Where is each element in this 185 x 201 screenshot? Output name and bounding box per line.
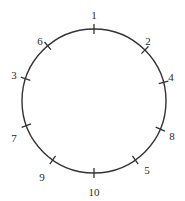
tick-label-1: 1: [91, 9, 97, 21]
tick-label-10: 10: [89, 186, 101, 198]
tick-label-6: 6: [37, 35, 43, 47]
tick-label-3: 3: [11, 69, 17, 81]
tick-label-5: 5: [144, 164, 150, 176]
tick-label-8: 8: [169, 130, 175, 142]
tick-mark-9: [50, 156, 56, 164]
tick-label-9: 9: [39, 171, 45, 183]
tick-label-7: 7: [11, 132, 17, 144]
tick-marks: [21, 24, 169, 178]
tick-label-4: 4: [168, 71, 174, 83]
circle-diagram: 12485109736: [0, 0, 185, 201]
tick-mark-5: [132, 156, 138, 164]
tick-labels: 12485109736: [11, 9, 175, 198]
tick-label-2: 2: [145, 35, 151, 47]
